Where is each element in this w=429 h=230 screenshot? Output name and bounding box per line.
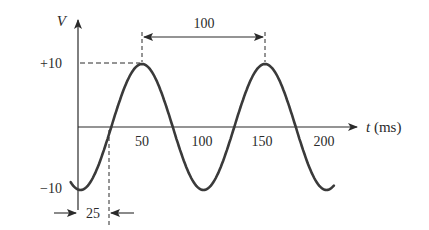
period-label: 100 [194, 16, 215, 31]
y-tick-min: −10 [40, 181, 62, 196]
x-axis-variable: t [366, 119, 371, 135]
x-tick-100: 100 [192, 134, 213, 149]
x-axis-label: t (ms) [366, 119, 401, 136]
period-dimension-arrow [143, 33, 264, 41]
sine-wave-diagram: V t (ms) +10 −10 50 100 150 200 100 [0, 0, 429, 230]
y-tick-max: +10 [40, 56, 62, 71]
offset-label: 25 [86, 206, 100, 221]
x-tick-50: 50 [135, 134, 149, 149]
y-axis-label: V [57, 13, 68, 29]
x-tick-150: 150 [252, 134, 273, 149]
x-axis-units: (ms) [374, 119, 402, 136]
x-tick-200: 200 [314, 134, 335, 149]
